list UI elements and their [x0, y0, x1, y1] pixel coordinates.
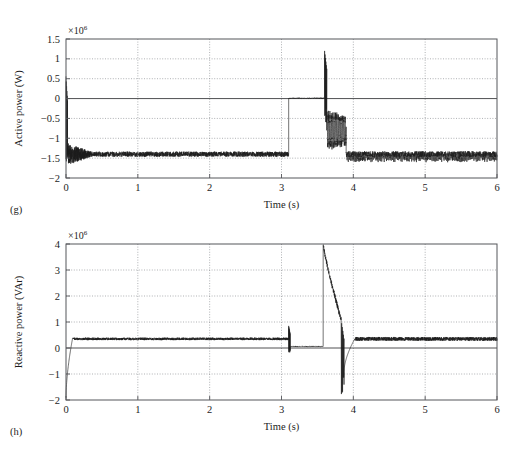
panel-caption: (h) [10, 426, 23, 438]
x-axis-tick-label: 6 [494, 182, 499, 193]
x-axis-tick-label: 4 [351, 182, 357, 193]
y-axis-tick-label: −2 [49, 395, 60, 406]
y-axis-multiplier: ×106 [68, 24, 88, 36]
x-axis-tick-label: 6 [494, 404, 499, 415]
x-axis-title: Time (s) [264, 199, 300, 211]
y-axis-tick-label: 1.5 [47, 34, 60, 45]
x-axis-tick-label: 1 [135, 404, 140, 415]
y-axis-multiplier: ×106 [68, 229, 88, 241]
y-axis-tick-label: 0 [55, 93, 60, 104]
y-axis-tick-label: 3 [55, 265, 60, 276]
y-axis-tick-label: 2 [55, 291, 60, 302]
y-axis-title: Reactive power (VAr) [13, 275, 25, 368]
panel-reactive-power: −2−1012340123456Reactive power (VAr)Time… [0, 222, 517, 458]
y-axis-tick-label: −0.5 [41, 113, 60, 124]
x-axis-tick-label: 3 [279, 404, 284, 415]
y-axis-tick-label: 0 [55, 343, 60, 354]
panel-active-power: −2−1.5−1−0.500.511.50123456Active power … [0, 0, 517, 222]
y-axis-title: Active power (W) [13, 70, 25, 147]
x-axis-title: Time (s) [264, 421, 300, 433]
y-axis-tick-label: 1 [55, 53, 60, 64]
x-axis-tick-label: 5 [423, 182, 428, 193]
y-axis-tick-label: −1.5 [41, 153, 60, 164]
x-axis-tick-label: 2 [207, 404, 212, 415]
y-axis-tick-label: −1 [49, 369, 60, 380]
y-axis-tick-label: −1 [49, 133, 60, 144]
x-axis-tick-label: 1 [135, 182, 140, 193]
active-power-plot: −2−1.5−1−0.500.511.50123456Active power … [0, 0, 517, 222]
x-axis-tick-label: 5 [423, 404, 428, 415]
x-axis-tick-label: 3 [279, 182, 284, 193]
y-axis-tick-label: 1 [55, 317, 60, 328]
y-axis-tick-label: −2 [49, 173, 60, 184]
reactive-power-plot: −2−1012340123456Reactive power (VAr)Time… [0, 222, 517, 458]
panel-caption: (g) [10, 204, 23, 216]
x-axis-tick-label: 0 [63, 404, 68, 415]
x-axis-tick-label: 2 [207, 182, 212, 193]
y-axis-tick-label: 4 [55, 239, 61, 250]
figure-container: −2−1.5−1−0.500.511.50123456Active power … [0, 0, 517, 458]
x-axis-tick-label: 0 [63, 182, 68, 193]
x-axis-tick-label: 4 [351, 404, 357, 415]
y-axis-tick-label: 0.5 [47, 73, 60, 84]
